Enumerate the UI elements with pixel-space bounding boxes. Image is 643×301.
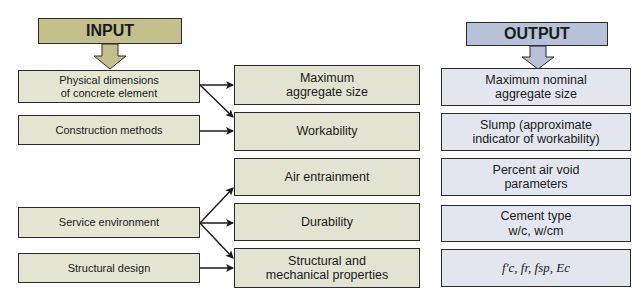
input-label: Structural design: [68, 262, 151, 275]
output-label: Maximum nominal aggregate size: [485, 73, 586, 102]
factor-label: Maximum aggregate size: [286, 71, 368, 100]
output-label: Cement type w/c, w/cm: [501, 209, 572, 238]
factor-label: Air entrainment: [285, 170, 370, 184]
output-box-slump: Slump (approximate indicator of workabil…: [441, 113, 631, 151]
output-box-cement-type: Cement type w/c, w/cm: [441, 205, 631, 242]
factor-box-structural-mechanical: Structural and mechanical properties: [234, 248, 420, 288]
input-box-construction-methods: Construction methods: [18, 115, 200, 145]
output-label: Slump (approximate indicator of workabil…: [472, 118, 599, 147]
factor-box-air-entrainment: Air entrainment: [234, 158, 420, 196]
output-label: Percent air void parameters: [493, 163, 580, 192]
output-down-arrow-icon: [522, 46, 554, 69]
factor-box-max-aggregate: Maximum aggregate size: [234, 65, 420, 105]
factor-box-durability: Durability: [234, 203, 420, 241]
input-label: Physical dimensions of concrete element: [59, 74, 159, 99]
input-box-physical-dimensions: Physical dimensions of concrete element: [18, 70, 200, 103]
output-box-max-nominal-aggregate: Maximum nominal aggregate size: [441, 68, 631, 106]
output-box-air-void: Percent air void parameters: [441, 158, 631, 196]
input-label: Service environment: [59, 216, 159, 229]
output-label: f′c, fr, fsp, Ec: [502, 261, 570, 276]
input-box-structural-design: Structural design: [18, 253, 200, 283]
output-box-strength-properties: f′c, fr, fsp, Ec: [441, 249, 631, 287]
factor-label: Workability: [297, 124, 358, 138]
input-down-arrow-icon: [94, 44, 126, 69]
input-box-service-environment: Service environment: [18, 207, 200, 238]
factor-label: Structural and mechanical properties: [266, 254, 388, 283]
factor-box-workability: Workability: [234, 112, 420, 151]
input-label: Construction methods: [56, 124, 163, 137]
factor-label: Durability: [301, 215, 353, 229]
